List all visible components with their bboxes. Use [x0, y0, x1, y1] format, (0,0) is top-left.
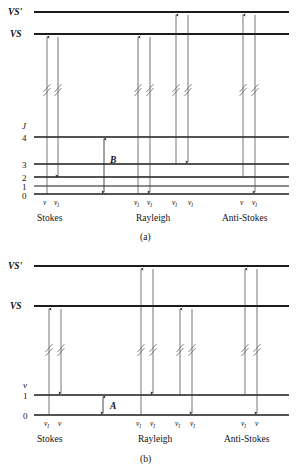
state-label-vs-b: VS — [10, 301, 22, 311]
level-label-j4: 4 — [22, 133, 27, 143]
level-label-v0: 0 — [23, 411, 28, 421]
group-label-antistokes-b: Anti-Stokes — [224, 434, 270, 444]
group-label-stokes-a: Stokes — [37, 213, 63, 223]
state-label-vs-a: VS — [10, 29, 22, 39]
nu-label-a-6: ν — [240, 198, 244, 207]
raman-energy-level-diagram: B — [0, 0, 296, 468]
nu-label-b-0: νI — [44, 419, 49, 429]
squiggle-rayleigh2-b — [177, 344, 196, 356]
group-label-rayleigh-a: Rayleigh — [136, 213, 171, 223]
squiggle-antistokes-a — [240, 84, 259, 96]
nu-label-b-3: νI — [150, 419, 155, 429]
nu-label-a-7: νI — [252, 198, 257, 208]
quantum-axis-label-j: J — [22, 121, 27, 131]
nu-label-b-5: νI — [190, 419, 195, 429]
level-label-v1: 1 — [23, 391, 28, 401]
squiggle-stokes-b — [46, 344, 65, 356]
gap-label-a-b: A — [109, 401, 116, 411]
nu-label-b-1: ν — [58, 419, 62, 428]
gap-label-b: B — [109, 155, 116, 165]
nu-label-row-b: νI ν νI νI νI νI νI ν — [44, 419, 259, 429]
panel-b: A — [8, 261, 289, 465]
nu-label-row-a: ν νI νI νI νI νI ν νI — [43, 198, 257, 208]
panel-caption-b: (b) — [140, 454, 151, 465]
group-label-rayleigh-b: Rayleigh — [138, 434, 173, 444]
nu-label-b-2: νI — [136, 419, 141, 429]
nu-label-a-3: νI — [147, 198, 152, 208]
nu-label-a-1: νI — [54, 198, 59, 208]
squiggle-rayleigh2-a — [173, 84, 192, 96]
quantum-axis-label-v: v — [23, 380, 27, 390]
squiggle-stokes-a — [44, 84, 62, 96]
squiggle-rayleigh1-b — [138, 344, 157, 356]
nu-label-b-7: ν — [255, 419, 259, 428]
nu-label-a-2: νI — [134, 198, 139, 208]
group-label-antistokes-a: Anti-Stokes — [222, 213, 268, 223]
squiggle-antistokes-b — [242, 344, 261, 356]
panel-a: B — [8, 7, 289, 243]
state-label-vs-prime-b: VS' — [8, 261, 23, 271]
panel-caption-a: (a) — [140, 232, 151, 243]
squiggle-rayleigh1-a — [135, 84, 154, 96]
nu-label-a-5: νI — [188, 198, 193, 208]
state-label-vs-prime-a: VS' — [8, 7, 23, 17]
nu-label-b-4: νI — [175, 419, 180, 429]
figure-root: B — [0, 0, 296, 468]
nu-label-a-4: νI — [172, 198, 177, 208]
nu-label-b-6: νI — [241, 419, 246, 429]
group-label-stokes-b: Stokes — [37, 434, 63, 444]
level-label-j0: 0 — [22, 191, 27, 201]
level-label-j3: 3 — [22, 160, 27, 170]
nu-label-a-0: ν — [43, 198, 47, 207]
